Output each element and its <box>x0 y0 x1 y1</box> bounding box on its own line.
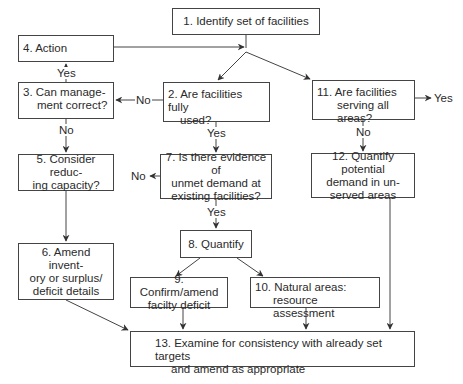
node-11-line2: serving all areas? <box>317 99 410 125</box>
node-1-text: 1. Identify set of facilities <box>183 15 308 28</box>
node-8-text: 8. Quantify <box>188 238 244 251</box>
edge-n8-n10 <box>237 258 263 276</box>
flowchart: 1. Identify set of facilities 4. Action … <box>0 0 463 384</box>
node-3-line2: ment correct? <box>23 99 109 112</box>
edge-label-n3-yes: Yes <box>56 67 77 79</box>
node-serving-all-areas: 11. Are facilities serving all areas? <box>312 80 415 120</box>
node-5-line1: 5. Consider reduc- <box>23 153 109 179</box>
node-13-line2: and amend as appropriate <box>155 363 408 376</box>
node-9-line1: 9. Confirm/amend <box>135 273 223 299</box>
node-natural-areas: 10. Natural areas: resource assessment <box>250 277 380 308</box>
edge-label-n7-no: No <box>130 170 147 182</box>
node-12-line2: demand in un- <box>326 176 400 189</box>
edge-label-n11-no: No <box>355 126 372 138</box>
edge-label-n2-no: No <box>135 94 152 106</box>
node-3-line1: 3. Can manage- <box>23 86 109 99</box>
node-facilities-fully-used: 2. Are facilities fully used? <box>163 82 270 122</box>
node-12-line3: served areas <box>330 189 396 202</box>
edge-n1-n2 <box>218 52 246 80</box>
node-action: 4. Action <box>18 35 114 62</box>
node-2-line1: 2. Are facilities fully <box>168 88 265 114</box>
edge-label-n2-yes: Yes <box>206 127 227 139</box>
edge-label-n3-no: No <box>58 124 75 136</box>
node-6-line3: deficit details <box>33 285 99 298</box>
edge-n1-n11 <box>246 52 310 79</box>
edge-label-n11-yes: Yes <box>433 92 454 104</box>
node-4-text: 4. Action <box>23 42 67 55</box>
node-quantify: 8. Quantify <box>180 230 252 258</box>
node-examine-consistency: 13. Examine for consistency with already… <box>130 331 415 367</box>
node-13-line1: 13. Examine for consistency with already… <box>155 337 408 363</box>
node-identify-facilities: 1. Identify set of facilities <box>172 8 320 35</box>
node-quantify-potential-demand: 12. Quantify potential demand in un- ser… <box>311 153 415 198</box>
node-10-line1: 10. Natural areas: <box>255 281 375 294</box>
node-11-line1: 11. Are facilities <box>317 86 410 99</box>
node-10-line2: resource assessment <box>255 294 375 320</box>
node-consider-reducing-capacity: 5. Consider reduc- ing capacity? <box>18 154 114 191</box>
node-7-line2: unmet demand at <box>171 177 261 190</box>
node-7-line1: 7. Is there evidence of <box>165 151 267 177</box>
node-6-line2: ory or surplus/ <box>30 272 103 285</box>
node-2-line2: used? <box>168 114 265 127</box>
node-6-line1: 6. Amend invent- <box>23 246 109 272</box>
node-can-management-correct: 3. Can manage- ment correct? <box>18 82 114 119</box>
node-7-line3: existing facilities? <box>171 190 260 203</box>
node-5-line2: ing capacity? <box>32 179 99 192</box>
node-12-line1: 12. Quantify potential <box>316 150 410 176</box>
edge-label-n7-yes: Yes <box>206 206 227 218</box>
node-evidence-unmet-demand: 7. Is there evidence of unmet demand at … <box>160 154 272 199</box>
node-amend-inventory: 6. Amend invent- ory or surplus/ deficit… <box>18 243 114 300</box>
node-9-line2: facilty deficit <box>148 299 211 312</box>
node-confirm-amend-deficit: 9. Confirm/amend facilty deficit <box>130 277 228 308</box>
edge-n6-n13 <box>66 300 128 330</box>
